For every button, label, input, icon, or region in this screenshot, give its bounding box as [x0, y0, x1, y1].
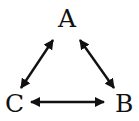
node-b-label: B — [115, 91, 133, 116]
edge-a-b-arrow — [80, 40, 114, 88]
edge-a-c-arrow — [21, 40, 53, 88]
node-c-label: C — [5, 91, 24, 116]
node-a-label: A — [58, 6, 76, 31]
diagram-canvas: A B C — [0, 0, 139, 121]
